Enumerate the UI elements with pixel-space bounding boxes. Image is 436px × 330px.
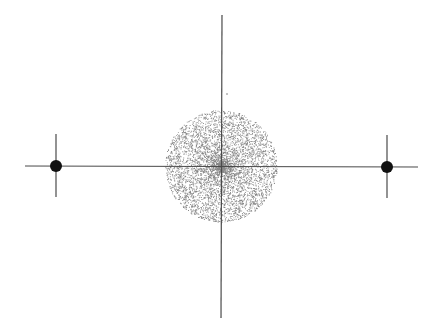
mass-dot-icon: [50, 160, 62, 172]
mass-dot-icon: [381, 161, 393, 173]
diagram-canvas: [0, 0, 436, 330]
stray-particle: [226, 93, 228, 95]
